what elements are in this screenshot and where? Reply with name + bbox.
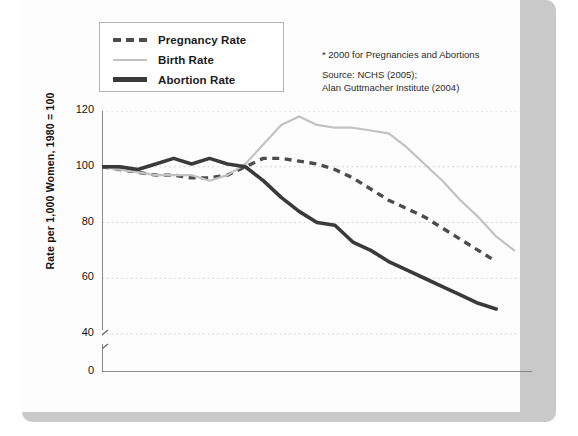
source-annotation: * 2000 for Pregnancies and Abortions Sou…	[322, 48, 537, 95]
y-tick-label: 40	[60, 326, 94, 338]
gridlines	[102, 111, 522, 372]
legend-label-pregnancy-rate: Pregnancy Rate	[158, 34, 246, 46]
y-axis-title: Rate per 1,000 Women, 1980 = 100	[44, 91, 56, 271]
thin-line-swatch-icon	[113, 55, 147, 65]
annotation-source-line-1: Source: NCHS (2005);	[322, 68, 537, 82]
chart-page: Pregnancy Rate Birth Rate Abortion Rate …	[0, 0, 578, 436]
plot-area: 1201008060400198019821984198619881990199…	[102, 111, 532, 372]
axis-ticks	[102, 111, 532, 372]
axis-lines	[102, 111, 532, 372]
chart-legend: Pregnancy Rate Birth Rate Abortion Rate	[99, 22, 284, 92]
legend-item-abortion-rate: Abortion Rate	[113, 70, 283, 90]
legend-label-abortion-rate: Abortion Rate	[158, 74, 235, 86]
chart-card: Pregnancy Rate Birth Rate Abortion Rate …	[22, 0, 520, 412]
thick-line-swatch-icon	[113, 75, 147, 85]
legend-item-pregnancy-rate: Pregnancy Rate	[113, 30, 283, 50]
data-series-layer	[102, 117, 514, 309]
y-tick-label: 100	[60, 159, 94, 171]
y-tick-label: 80	[60, 215, 94, 227]
annotation-source-line-2: Alan Guttmacher Institute (2004)	[322, 81, 537, 95]
y-tick-label: 0	[60, 364, 94, 376]
legend-item-birth-rate: Birth Rate	[113, 50, 283, 70]
annotation-footnote: * 2000 for Pregnancies and Abortions	[322, 48, 537, 62]
y-tick-label: 60	[60, 270, 94, 282]
chart-svg	[102, 111, 532, 372]
dashed-line-swatch-icon	[113, 35, 147, 45]
y-tick-label: 120	[60, 103, 94, 115]
legend-label-birth-rate: Birth Rate	[158, 54, 214, 66]
